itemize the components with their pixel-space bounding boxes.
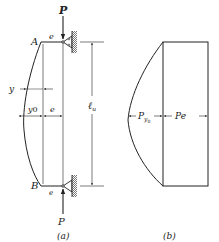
max-deflection-label: y0 bbox=[27, 105, 38, 114]
eccentricity-bottom-label: e bbox=[49, 189, 53, 197]
bottom-pin-support bbox=[62, 175, 77, 197]
eccentricity-dim-label: e bbox=[50, 105, 55, 114]
load-label-bottom: P bbox=[57, 216, 65, 227]
moment-0-sub: 0 bbox=[147, 119, 150, 124]
deflection-label: y bbox=[8, 84, 15, 94]
column-curve bbox=[24, 42, 41, 186]
load-label-top: P bbox=[58, 4, 68, 17]
figure: P A e y y0 e ℓu B e P (a) Py0 Pe (b) bbox=[0, 0, 219, 242]
max-deflection-sub: 0 bbox=[33, 105, 38, 114]
panel-a-caption: (a) bbox=[57, 231, 70, 241]
moment-curve bbox=[128, 42, 163, 186]
panel-b-caption: (b) bbox=[163, 231, 176, 241]
point-a-label: A bbox=[30, 36, 38, 47]
point-b-label: B bbox=[30, 180, 38, 191]
eccentricity-top-label: e bbox=[49, 32, 54, 41]
length-sub: u bbox=[92, 105, 96, 112]
length-label: ℓu bbox=[88, 100, 96, 112]
moment-eccentric-label: Pe bbox=[174, 111, 186, 121]
top-pin-support bbox=[62, 31, 77, 53]
moment-deflection-label: Py0 bbox=[137, 111, 150, 124]
